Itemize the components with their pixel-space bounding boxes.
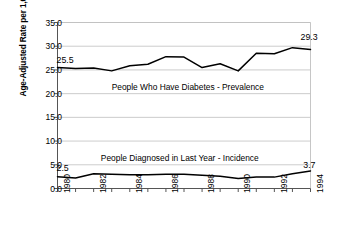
prevalence-end-value-label: 29.3 (301, 32, 318, 42)
incidence-start-value-label: 2.5 (57, 163, 69, 173)
chart-figure: Age-Adjusted Rate per 1,000 Population 0… (0, 0, 338, 231)
x-tick-labels: 19801982198419861988199019921994 (0, 0, 338, 231)
x-tick-label: 1986 (170, 174, 180, 193)
x-tick-label: 1984 (134, 174, 144, 193)
incidence-end-value-label: 3.7 (303, 160, 315, 170)
x-tick-label: 1994 (315, 174, 325, 193)
x-tick-label: 1982 (98, 174, 108, 193)
series-annotation-prevalence: People Who Have Diabetes - Prevalence (112, 82, 264, 92)
x-tick-label: 1992 (279, 174, 289, 193)
x-tick-label: 1980 (62, 174, 72, 193)
prevalence-start-value-label: 25.5 (57, 55, 74, 65)
x-tick-label: 1990 (242, 174, 252, 193)
series-annotation-incidence: People Diagnosed in Last Year - Incidenc… (101, 153, 259, 163)
x-tick-label: 1988 (206, 174, 216, 193)
